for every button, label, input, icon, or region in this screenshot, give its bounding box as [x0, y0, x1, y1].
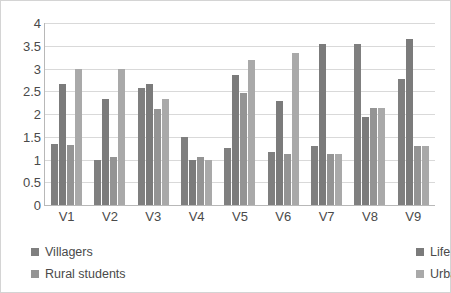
bar-group: [392, 23, 435, 205]
legend-swatch-icon: [31, 248, 39, 256]
bar[interactable]: [75, 69, 82, 205]
legend-item[interactable]: Urban students: [236, 263, 441, 285]
x-axis-tick-label: V1: [45, 209, 88, 224]
y-axis-tick-label: 2.5: [5, 84, 41, 99]
bar[interactable]: [205, 160, 212, 205]
y-axis-tick-label: 0: [5, 198, 41, 213]
legend-label: Rural students: [45, 267, 126, 281]
bar[interactable]: [362, 117, 369, 205]
x-axis-line: [45, 205, 435, 206]
bar[interactable]: [51, 144, 58, 205]
bar[interactable]: [311, 146, 318, 205]
bar[interactable]: [398, 79, 405, 205]
bar-group: [348, 23, 391, 205]
y-axis-tick-label: 3.5: [5, 38, 41, 53]
legend-label: Urban students: [430, 267, 451, 281]
legend-swatch-icon: [416, 248, 424, 256]
bar[interactable]: [422, 146, 429, 205]
x-axis-tick-label: V7: [305, 209, 348, 224]
y-axis-tick-label: 2: [5, 107, 41, 122]
bar[interactable]: [370, 108, 377, 205]
y-axis-tick-label: 0.5: [5, 175, 41, 190]
bar-group: [45, 23, 88, 205]
bar[interactable]: [284, 154, 291, 205]
x-axis-tick-label: V4: [175, 209, 218, 224]
bar[interactable]: [268, 152, 275, 205]
bar[interactable]: [59, 84, 66, 205]
bar-group: [132, 23, 175, 205]
bar-groups: [45, 23, 435, 205]
legend-label: Life and earth sciences teachers: [430, 245, 451, 259]
legend-item[interactable]: Villagers: [31, 241, 236, 263]
y-axis-tick-label: 1: [5, 152, 41, 167]
y-axis-tick-label: 1.5: [5, 129, 41, 144]
x-axis-tick-labels: V1V2V3V4V5V6V7V8V9: [45, 209, 435, 224]
y-axis-tick-label: 4: [5, 16, 41, 31]
bar[interactable]: [276, 101, 283, 205]
x-axis-tick-label: V3: [132, 209, 175, 224]
bar[interactable]: [248, 60, 255, 205]
bar[interactable]: [154, 109, 161, 205]
bar[interactable]: [292, 53, 299, 205]
y-axis-tick-labels: 00.511.522.533.54: [1, 23, 41, 205]
bar[interactable]: [197, 157, 204, 205]
bar[interactable]: [224, 148, 231, 205]
bar[interactable]: [414, 146, 421, 205]
bar[interactable]: [406, 39, 413, 205]
legend-label: Villagers: [45, 245, 93, 259]
legend-item[interactable]: Rural students: [31, 263, 236, 285]
x-axis-tick-label: V5: [218, 209, 261, 224]
bar-group: [88, 23, 131, 205]
bar[interactable]: [189, 160, 196, 205]
bar-chart: 00.511.522.533.54 V1V2V3V4V5V6V7V8V9 Vil…: [0, 0, 451, 293]
chart-legend: VillagersLife and earth sciences teacher…: [31, 241, 441, 285]
y-axis-tick-label: 3: [5, 61, 41, 76]
bar[interactable]: [94, 160, 101, 205]
bar[interactable]: [335, 154, 342, 205]
x-axis-tick-label: V8: [348, 209, 391, 224]
bar[interactable]: [110, 157, 117, 205]
bar[interactable]: [240, 93, 247, 205]
bar[interactable]: [146, 84, 153, 205]
bar[interactable]: [162, 99, 169, 205]
bar[interactable]: [354, 44, 361, 205]
x-axis-tick-label: V2: [88, 209, 131, 224]
bar-group: [262, 23, 305, 205]
bar[interactable]: [378, 108, 385, 205]
bar[interactable]: [327, 154, 334, 205]
bar-group: [305, 23, 348, 205]
bar[interactable]: [102, 99, 109, 205]
bar[interactable]: [181, 137, 188, 205]
bar[interactable]: [67, 145, 74, 205]
bar[interactable]: [138, 88, 145, 205]
x-axis-tick-label: V6: [262, 209, 305, 224]
legend-item[interactable]: Life and earth sciences teachers: [236, 241, 441, 263]
bar-group: [175, 23, 218, 205]
bar[interactable]: [232, 75, 239, 205]
bar[interactable]: [319, 44, 326, 205]
x-axis-tick-label: V9: [392, 209, 435, 224]
bar-group: [218, 23, 261, 205]
bar[interactable]: [118, 69, 125, 205]
legend-swatch-icon: [416, 270, 424, 278]
legend-swatch-icon: [31, 270, 39, 278]
